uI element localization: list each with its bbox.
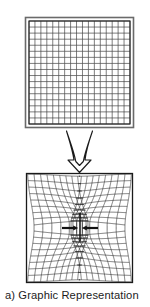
figure-caption: a) Graphic Representation [5,288,149,302]
undeformed-mesh-border [29,21,130,124]
deformed-mesh-panel [27,174,133,283]
figure-canvas [0,0,150,307]
undeformed-mesh-panel [26,18,134,128]
downward-transform-arrow [67,131,93,173]
figure-graphic-representation: a) Graphic Representation [0,0,150,307]
